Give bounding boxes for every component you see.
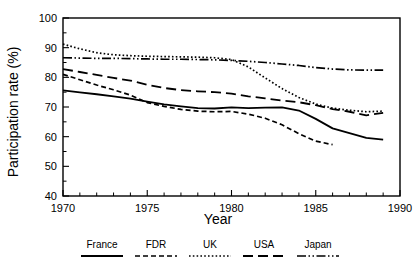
legend-item-uk: UK bbox=[189, 239, 231, 256]
legend-label: USA bbox=[254, 239, 275, 250]
legend-item-japan: Japan bbox=[297, 239, 339, 256]
legend-label: UK bbox=[203, 239, 217, 250]
y-axis-tick-labels: 405060708090100 bbox=[39, 12, 57, 202]
x-axis-ticks bbox=[63, 190, 400, 196]
y-tick-label: 100 bbox=[39, 12, 57, 24]
y-tick-label: 50 bbox=[45, 160, 57, 172]
y-tick-label: 80 bbox=[45, 71, 57, 83]
series-lines bbox=[63, 44, 383, 145]
x-tick-label: 1975 bbox=[135, 202, 159, 214]
legend-item-fdr: FDR bbox=[135, 239, 177, 256]
legend: FranceFDRUKUSAJapan bbox=[81, 239, 339, 256]
chart-figure: 405060708090100 19701975198019851990 Par… bbox=[0, 0, 416, 269]
y-axis-title: Participation rate (%) bbox=[5, 47, 21, 178]
participation-rate-line-chart: 405060708090100 19701975198019851990 Par… bbox=[0, 0, 416, 269]
y-tick-label: 70 bbox=[45, 101, 57, 113]
x-tick-label: 1990 bbox=[388, 202, 412, 214]
series-line-france bbox=[63, 90, 383, 139]
x-axis-title: Year bbox=[204, 211, 233, 227]
y-tick-label: 90 bbox=[45, 42, 57, 54]
y-tick-label: 60 bbox=[45, 131, 57, 143]
legend-label: FDR bbox=[146, 239, 167, 250]
legend-label: Japan bbox=[304, 239, 331, 250]
x-tick-label: 1970 bbox=[51, 202, 75, 214]
legend-item-france: France bbox=[81, 239, 123, 256]
series-line-japan bbox=[63, 58, 383, 70]
legend-item-usa: USA bbox=[243, 239, 285, 256]
legend-label: France bbox=[86, 239, 118, 250]
x-tick-label: 1985 bbox=[304, 202, 328, 214]
y-tick-label: 40 bbox=[45, 190, 57, 202]
